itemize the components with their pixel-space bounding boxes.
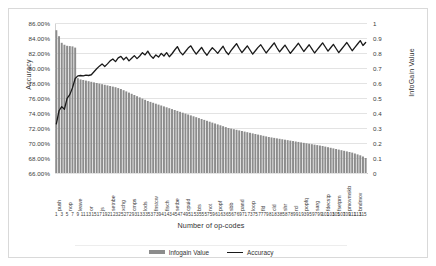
x-tick-label: 25 (118, 212, 123, 217)
x-tick-label: 45 (172, 212, 177, 217)
bar (104, 85, 106, 173)
bar (117, 88, 119, 173)
bar (179, 112, 181, 173)
x-tick-label: 79 (264, 212, 269, 217)
bar (93, 82, 95, 173)
x-tick-label: 95 (307, 212, 312, 217)
bar (271, 137, 273, 173)
x-tick-label: 47 (178, 212, 183, 217)
bar (238, 130, 240, 173)
x-tick-label: 97 (312, 212, 317, 217)
bar (214, 124, 216, 174)
x-tick-label: 91 (296, 212, 301, 217)
x-tick-label: 115 (359, 212, 366, 217)
x-tick-label: 67 (231, 212, 236, 217)
bar (338, 150, 340, 173)
opcode-label: loop (250, 201, 256, 211)
x-tick-label: 55 (199, 212, 204, 217)
y-tick-label-right: 0.3 (373, 125, 382, 132)
y-tick-label-right: 0.2 (373, 140, 382, 147)
opcode-label: lods (142, 201, 148, 211)
y-tick-label-right: 0.4 (373, 110, 382, 117)
bar (365, 158, 367, 173)
legend-item-accuracy[interactable]: Accuracy (227, 249, 273, 256)
bar (327, 147, 329, 173)
bar (287, 140, 289, 173)
legend-item-infogain[interactable]: Infogain Value (149, 249, 209, 256)
bar (217, 124, 219, 173)
x-axis-line (55, 173, 368, 174)
opcode-label: setnbe (110, 195, 116, 211)
opcode-label: js (99, 207, 105, 211)
x-tick-label: 5 (66, 212, 69, 217)
bar (182, 113, 184, 173)
chart-frame: 66.00%68.00%70.00%72.00%74.00%76.00%78.0… (8, 8, 428, 258)
bar (254, 134, 256, 173)
y-tick-label-left: 74.00% (28, 110, 50, 117)
bar (308, 144, 310, 173)
opcode-label: fnstcw (153, 196, 159, 211)
bar (228, 128, 230, 173)
bar (155, 104, 157, 173)
y-axis-right-title: InfoGain Value (408, 33, 415, 113)
bar (163, 106, 165, 173)
bar (195, 117, 197, 173)
bar (187, 115, 189, 174)
bar (233, 129, 235, 173)
opcode-label: fsetpm (336, 195, 342, 211)
bar (139, 97, 141, 173)
bar (343, 151, 345, 173)
bar (82, 80, 84, 173)
opcode-label: not (207, 204, 213, 211)
bar (72, 46, 74, 173)
x-tick-label: 19 (102, 212, 107, 217)
bar (77, 78, 79, 173)
opcode-label: popfq (303, 198, 309, 211)
legend-divider (75, 245, 347, 246)
y-tick-label-left: 72.00% (28, 125, 50, 132)
bar (244, 132, 246, 173)
bar (300, 142, 302, 173)
bar (123, 90, 125, 173)
x-tick-label: 65 (226, 212, 231, 217)
x-tick-label: 27 (124, 212, 129, 217)
x-tick-label: 35 (145, 212, 150, 217)
x-tick-label: 75 (253, 212, 258, 217)
x-tick-label: 17 (97, 212, 102, 217)
bar (120, 89, 122, 173)
x-tick-label: 11 (81, 212, 86, 217)
bar (198, 118, 200, 173)
x-tick-label: 7 (71, 212, 74, 217)
bar (324, 147, 326, 173)
bar (330, 148, 332, 173)
x-tick-label: 51 (188, 212, 193, 217)
x-axis-title: Number of op-codes (55, 221, 367, 230)
series-canvas (55, 23, 367, 173)
bar (193, 116, 195, 173)
bar-series (55, 30, 366, 173)
bar (211, 123, 213, 173)
x-tick-label: 69 (237, 212, 242, 217)
chart-legend: Infogain Value Accuracy (55, 245, 367, 259)
x-axis-opcode-labels: pushnopleaveorjssetnbexchgcmpslodsfnstcw… (55, 175, 367, 211)
y-tick-label-right: 0.7 (373, 65, 382, 72)
bar (335, 149, 337, 173)
y-tick-label-right: 0.8 (373, 50, 382, 57)
bar (58, 36, 60, 173)
bar (128, 93, 130, 173)
plot-area (55, 23, 367, 173)
bar (295, 142, 297, 174)
bar (144, 100, 146, 173)
bar (262, 136, 264, 173)
opcode-label: sarg (314, 201, 320, 211)
x-tick-label: 73 (247, 212, 252, 217)
bar (131, 94, 133, 173)
bar (351, 153, 353, 173)
bar (357, 154, 359, 173)
bar (80, 79, 82, 173)
y-tick-label-right: 0.5 (373, 95, 382, 102)
bar (219, 125, 221, 173)
bar (359, 155, 361, 173)
bar (158, 105, 160, 173)
opcode-label: bts (196, 204, 202, 211)
